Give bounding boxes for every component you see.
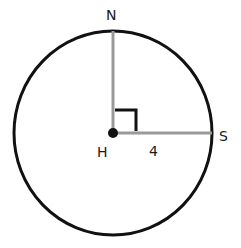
circle-diagram [0,0,241,248]
label-n: N [106,8,116,22]
right-angle-marker [115,110,136,131]
center-point-h [108,128,118,138]
label-length-hs: 4 [149,144,158,158]
label-s: S [219,129,228,143]
label-h: H [97,145,108,159]
